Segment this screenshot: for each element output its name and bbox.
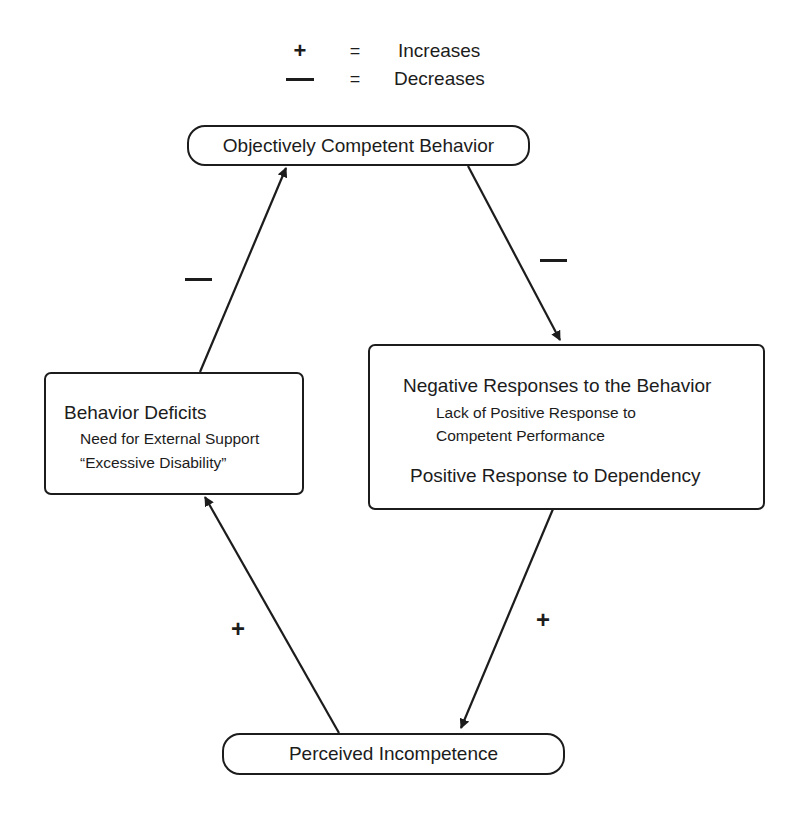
node-label: Objectively Competent Behavior <box>223 135 494 157</box>
arrow-left-to-top <box>200 168 286 372</box>
node-title: Negative Responses to the Behavior <box>403 375 711 397</box>
node-subitem: Lack of Positive Response to <box>436 404 636 422</box>
arrow-top-to-right <box>468 166 560 340</box>
edge-sign-plus-bottom-left: + <box>231 617 245 641</box>
edge-sign-minus-left-top <box>185 278 212 281</box>
node-negative-responses: Negative Responses to the Behavior Lack … <box>368 344 765 510</box>
node-behavior-deficits: Behavior Deficits Need for External Supp… <box>44 372 304 495</box>
edge-sign-plus-right-bottom: + <box>536 608 550 632</box>
node-title: Behavior Deficits <box>64 402 207 424</box>
node-title-secondary: Positive Response to Dependency <box>410 465 700 487</box>
arrow-bottom-to-left <box>205 497 339 733</box>
node-subitem: Competent Performance <box>436 427 605 445</box>
edge-sign-minus-top-right <box>540 259 567 262</box>
node-perceived-incompetence: Perceived Incompetence <box>222 733 565 775</box>
node-objectively-competent-behavior: Objectively Competent Behavior <box>187 125 530 166</box>
node-label: Perceived Incompetence <box>289 743 498 765</box>
node-subitem: Need for External Support <box>80 430 259 448</box>
node-subitem: “Excessive Disability” <box>80 454 226 472</box>
